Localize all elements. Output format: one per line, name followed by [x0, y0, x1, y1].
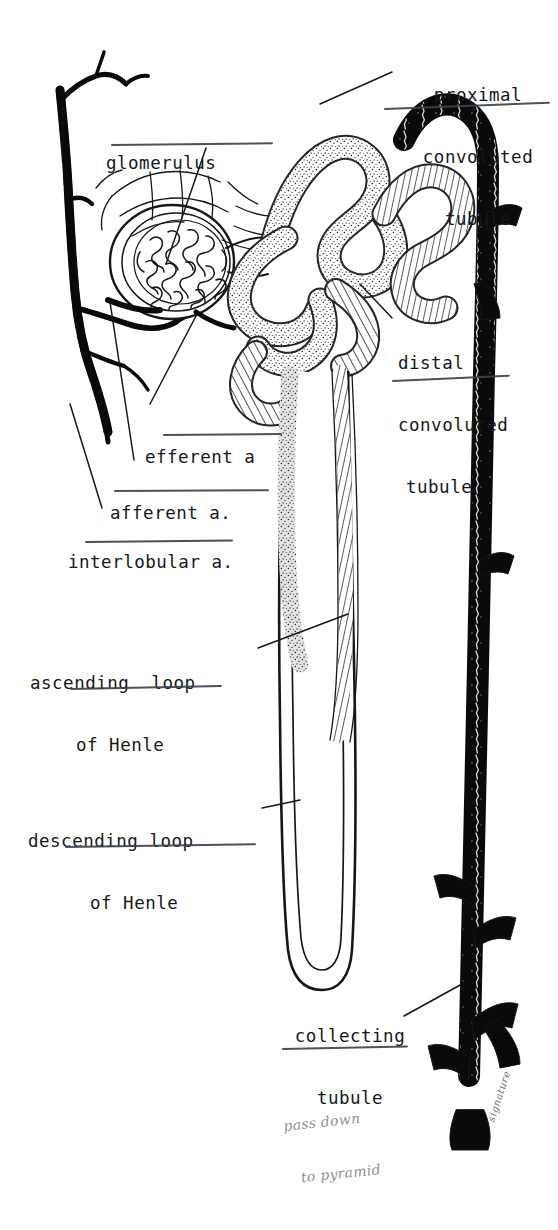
label-interlobular-line1: interlobular a. — [68, 552, 234, 573]
pencil-annotation-line1: pass down — [283, 1108, 376, 1135]
label-descending-line1: descending loop — [28, 831, 278, 852]
label-ascending-loop-of-henle: ascending loop of Henle — [30, 632, 260, 797]
label-distal-line2: convoluted — [398, 415, 548, 436]
pencil-annotation-line2: to pyramid — [288, 1161, 381, 1188]
label-interlobular-artery: interlobular a. — [68, 511, 234, 614]
label-descending-loop-of-henle: descending loop of Henle — [28, 790, 278, 955]
label-glomerulus-line1: glomerulus — [106, 153, 216, 174]
label-proximal-convoluted-tubule: proximal convoluted tubule — [404, 44, 552, 271]
label-distal-line1: distal — [398, 353, 548, 374]
label-descending-line2: of Henle — [28, 893, 278, 914]
label-collecting-line1: collecting — [290, 1026, 410, 1047]
label-ascending-line1: ascending loop — [30, 673, 260, 694]
label-distal-convoluted-tubule: distal convoluted tubule — [398, 312, 548, 539]
label-glomerulus: glomerulus — [106, 112, 216, 215]
label-ascending-line2: of Henle — [30, 735, 260, 756]
nephron-diagram: proximal convoluted tubule glomerulus di… — [0, 0, 558, 1230]
pencil-annotation: pass down to pyramid — [279, 1074, 385, 1223]
label-proximal-line2: convoluted — [404, 147, 552, 168]
loop-of-henle-shape — [279, 372, 358, 990]
label-proximal-line3: tubule — [404, 209, 552, 230]
label-distal-line3: tubule — [398, 477, 548, 498]
